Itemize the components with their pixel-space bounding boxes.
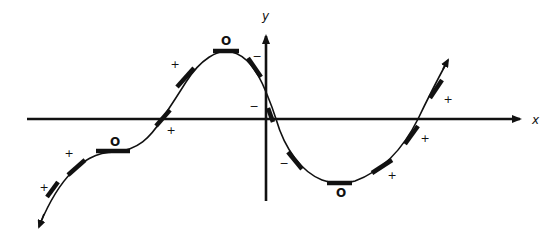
tangent-segment <box>47 182 58 197</box>
negative-slope-label: − <box>252 50 261 63</box>
positive-slope-label: + <box>64 147 73 160</box>
zero-slope-label: O <box>110 135 120 149</box>
negative-slope-label: − <box>279 157 288 170</box>
y-axis-label: y <box>261 9 270 23</box>
y-axis: y <box>261 9 270 201</box>
positive-slope-label: + <box>170 58 179 71</box>
function-curve <box>39 51 448 227</box>
tangent-segment <box>405 126 418 144</box>
zero-slope-label: O <box>221 34 231 48</box>
tangent-segment <box>288 152 302 169</box>
x-axis-label: x <box>531 113 540 127</box>
positive-slope-label: + <box>387 169 396 182</box>
positive-slope-label: + <box>443 93 452 106</box>
tangent-segment <box>68 160 85 175</box>
slope-tangent-segments <box>47 51 442 197</box>
zero-slope-label: O <box>336 186 346 200</box>
x-axis: x <box>27 113 540 127</box>
positive-slope-label: + <box>166 124 175 137</box>
negative-slope-label: − <box>249 100 258 113</box>
function-graph: x y ++O++O−−−O+++ <box>0 0 555 237</box>
positive-slope-label: + <box>39 181 48 194</box>
positive-slope-label: + <box>420 132 429 145</box>
diagram-canvas: x y ++O++O−−−O+++ <box>0 0 555 237</box>
